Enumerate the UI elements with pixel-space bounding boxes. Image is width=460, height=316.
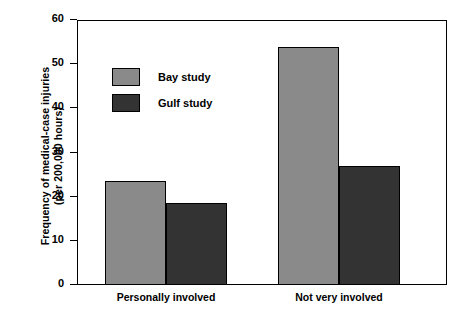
y-tick-mark — [70, 107, 77, 108]
y-tick-mark — [70, 240, 77, 241]
bar — [105, 181, 166, 285]
x-tick-label: Not very involved — [249, 291, 429, 303]
bars-layer — [77, 20, 447, 285]
y-tick-mark — [70, 152, 77, 153]
y-tick-label: 50 — [0, 56, 64, 68]
bar — [278, 47, 339, 286]
y-tick-mark — [70, 19, 77, 20]
y-tick-mark — [70, 196, 77, 197]
y-tick-label: 20 — [0, 189, 64, 201]
legend-label: Gulf study — [158, 97, 212, 109]
legend-swatch — [112, 94, 140, 112]
y-tick-label: 30 — [0, 145, 64, 157]
y-tick-mark — [70, 63, 77, 64]
y-tick-label: 60 — [0, 12, 64, 24]
legend-item: Bay study — [112, 64, 212, 90]
bar — [339, 166, 400, 285]
x-tick-label: Personally involved — [76, 291, 256, 303]
y-tick-mark — [70, 284, 77, 285]
legend-item: Gulf study — [112, 90, 212, 116]
legend-label: Bay study — [158, 71, 211, 83]
legend: Bay studyGulf study — [112, 64, 212, 116]
y-tick-label: 10 — [0, 233, 64, 245]
y-tick-label: 0 — [0, 277, 64, 289]
legend-swatch — [112, 68, 140, 86]
y-tick-label: 40 — [0, 100, 64, 112]
bar-chart: Frequency of medical-case injuries (per … — [0, 0, 460, 316]
bar — [166, 203, 227, 285]
